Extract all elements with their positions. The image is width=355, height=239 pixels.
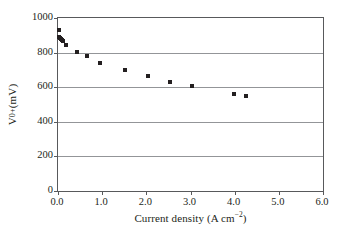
- gridline-y: [58, 122, 323, 123]
- gridline-y: [58, 156, 323, 157]
- chart-figure: V0+ (mV) 02004006008001000 0.01.02.03.04…: [0, 0, 355, 239]
- y-axis-title-units: (mV): [6, 84, 18, 109]
- data-point: [232, 92, 236, 96]
- data-point: [85, 54, 89, 58]
- data-point: [98, 61, 102, 65]
- x-tick-mark: [323, 191, 324, 195]
- x-tick-label: 2.0: [125, 196, 165, 208]
- x-tick-mark: [102, 191, 103, 195]
- data-point: [75, 50, 79, 54]
- data-point: [244, 94, 248, 98]
- x-tick-mark: [279, 191, 280, 195]
- x-tick-mark: [235, 191, 236, 195]
- x-tick-label: 0.0: [37, 196, 77, 208]
- data-point: [57, 28, 61, 32]
- x-tick-label: 4.0: [214, 196, 254, 208]
- y-tick-label: 600: [19, 81, 53, 91]
- y-tick-mark: [54, 122, 58, 123]
- plot-area: [57, 17, 324, 192]
- x-tick-mark: [191, 191, 192, 195]
- y-tick-label: 200: [19, 150, 53, 160]
- x-tick-label: 6.0: [302, 196, 342, 208]
- x-axis-title-superscript: −2: [235, 210, 243, 219]
- x-axis-title: Current density (A cm−2): [57, 210, 324, 224]
- y-tick-mark: [54, 18, 58, 19]
- y-tick-label: 0: [19, 185, 53, 195]
- data-point: [64, 43, 68, 47]
- y-tick-mark: [54, 87, 58, 88]
- x-axis-tick-labels: 0.01.02.03.04.05.06.0: [57, 196, 324, 210]
- data-point: [123, 68, 127, 72]
- x-tick-label: 5.0: [258, 196, 298, 208]
- y-axis-title-subscript: 0+: [8, 108, 17, 117]
- x-tick-mark: [58, 191, 59, 195]
- x-axis-title-main: Current density (A cm: [134, 212, 234, 224]
- gridline-y: [58, 53, 323, 54]
- data-point: [168, 80, 172, 84]
- y-tick-mark: [54, 53, 58, 54]
- y-tick-label: 1000: [19, 12, 53, 22]
- y-tick-label: 800: [19, 47, 53, 57]
- y-tick-mark: [54, 156, 58, 157]
- x-tick-mark: [146, 191, 147, 195]
- data-point: [190, 84, 194, 88]
- x-tick-label: 3.0: [170, 196, 210, 208]
- data-point: [146, 74, 150, 78]
- x-tick-label: 1.0: [81, 196, 121, 208]
- y-tick-label: 400: [19, 116, 53, 126]
- y-axis-title-main: V: [6, 117, 18, 125]
- x-axis-title-tail: ): [243, 212, 247, 224]
